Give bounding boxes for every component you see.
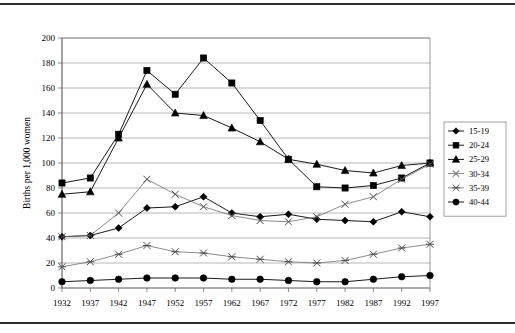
y-tick-label: 40 xyxy=(46,233,56,243)
marker-triangle xyxy=(87,188,95,195)
marker-circle xyxy=(200,275,207,282)
y-tick-label: 60 xyxy=(46,208,56,218)
series-30-34 xyxy=(59,161,434,241)
series-line xyxy=(62,197,430,237)
marker-square xyxy=(257,117,263,123)
marker-diamond xyxy=(115,225,122,232)
marker-square xyxy=(59,180,65,186)
y-tick-label: 200 xyxy=(42,33,56,43)
marker-diamond xyxy=(143,205,150,212)
x-tick-label: 1992 xyxy=(393,298,411,308)
x-tick-label: 1977 xyxy=(308,298,327,308)
marker-circle xyxy=(285,277,292,284)
y-tick-label: 140 xyxy=(42,108,56,118)
marker-circle xyxy=(172,275,179,282)
marker-circle xyxy=(229,276,236,283)
legend-label: 40-44 xyxy=(469,197,490,207)
x-tick-label: 1997 xyxy=(421,298,440,308)
marker-circle xyxy=(115,276,122,283)
x-tick-label: 1962 xyxy=(223,298,241,308)
x-tick-label: 1957 xyxy=(195,298,214,308)
legend-label: 20-24 xyxy=(469,140,490,150)
x-tick-label: 1937 xyxy=(81,298,100,308)
marker-diamond xyxy=(342,217,349,224)
series-20-24 xyxy=(59,55,433,191)
x-axis-ticks: 1932193719421947195219571962196719721977… xyxy=(53,288,440,308)
marker-diamond xyxy=(172,203,179,210)
marker-circle xyxy=(144,275,151,282)
x-tick-label: 1987 xyxy=(364,298,383,308)
series-35-39 xyxy=(58,241,434,271)
y-tick-label: 0 xyxy=(51,283,56,293)
marker-diamond xyxy=(285,211,292,218)
y-tick-label: 160 xyxy=(42,83,56,93)
legend-label: 25-29 xyxy=(469,154,489,164)
marker-circle xyxy=(427,272,434,279)
marker-circle xyxy=(370,276,377,283)
marker-square xyxy=(87,175,93,181)
x-tick-label: 1947 xyxy=(138,298,157,308)
x-tick-label: 1982 xyxy=(336,298,354,308)
marker-circle xyxy=(453,199,459,205)
marker-circle xyxy=(342,278,349,285)
y-tick-label: 120 xyxy=(42,133,56,143)
series-line xyxy=(62,58,430,188)
marker-square xyxy=(229,80,235,86)
marker-circle xyxy=(313,278,320,285)
marker-diamond xyxy=(370,218,377,225)
marker-square xyxy=(453,142,459,148)
legend-label: 30-34 xyxy=(469,169,490,179)
x-tick-label: 1942 xyxy=(110,298,128,308)
marker-diamond xyxy=(427,213,434,220)
marker-triangle xyxy=(143,80,151,87)
x-tick-label: 1967 xyxy=(251,298,270,308)
marker-square xyxy=(144,67,150,73)
y-axis-ticks: 020406080100120140160180200 xyxy=(42,33,63,293)
legend-label: 35-39 xyxy=(469,183,489,193)
y-tick-label: 180 xyxy=(42,58,56,68)
marker-diamond xyxy=(257,213,264,220)
series-40-44 xyxy=(59,272,434,285)
marker-square xyxy=(342,185,348,191)
figure-container: 0204060801001201401601802001932193719421… xyxy=(0,0,515,333)
y-tick-label: 80 xyxy=(46,183,56,193)
x-tick-label: 1952 xyxy=(166,298,184,308)
y-axis-title: Births per 1,000 women xyxy=(22,117,32,209)
series-25-29 xyxy=(58,80,434,197)
marker-diamond xyxy=(398,208,405,215)
marker-square xyxy=(200,55,206,61)
marker-circle xyxy=(398,273,405,280)
line-chart: 0204060801001201401601802001932193719421… xyxy=(0,0,515,333)
marker-square xyxy=(370,182,376,188)
series-15-19 xyxy=(59,193,434,240)
marker-circle xyxy=(59,278,66,285)
marker-square xyxy=(314,184,320,190)
legend: 15-1920-2425-2930-3435-3940-44 xyxy=(444,122,506,216)
x-tick-label: 1972 xyxy=(279,298,297,308)
y-tick-label: 20 xyxy=(46,258,56,268)
marker-circle xyxy=(87,277,94,284)
legend-label: 15-19 xyxy=(469,126,489,136)
marker-triangle xyxy=(228,124,236,131)
marker-diamond xyxy=(200,193,207,200)
x-tick-label: 1932 xyxy=(53,298,71,308)
marker-circle xyxy=(257,276,264,283)
marker-triangle xyxy=(256,138,264,145)
y-tick-label: 100 xyxy=(42,158,56,168)
marker-square xyxy=(172,91,178,97)
series-group xyxy=(58,55,434,285)
